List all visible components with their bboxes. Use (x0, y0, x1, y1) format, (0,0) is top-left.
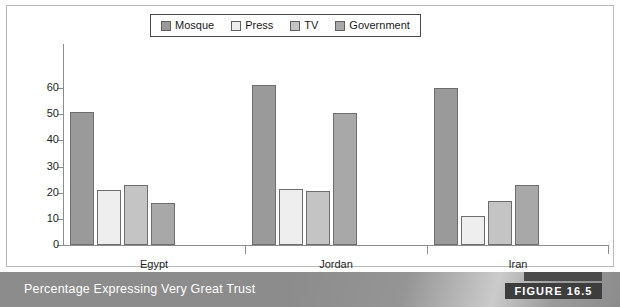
bar-jordan-mosque (252, 85, 276, 245)
bar-jordan-press (279, 189, 303, 245)
caption-bar: Percentage Expressing Very Great Trust F… (0, 272, 620, 307)
legend-item-press: Press (231, 20, 273, 31)
bar-iran-tv (488, 201, 512, 245)
plot-area: 0102030405060EgyptJordanIran (63, 44, 609, 246)
x-axis-group-label-jordan: Jordan (319, 258, 353, 270)
chart-panel: MosquePressTVGovernment 0102030405060Egy… (6, 5, 614, 267)
legend-swatch-icon (335, 21, 345, 31)
x-axis-group-separator (427, 245, 428, 254)
bar-egypt-press (97, 190, 121, 245)
legend-item-government: Government (335, 20, 410, 31)
legend-item-mosque: Mosque (161, 20, 214, 31)
x-axis-group-label-iran: Iran (509, 258, 528, 270)
y-axis-line (63, 44, 64, 246)
legend-item-label: Government (349, 20, 410, 31)
legend-item-tv: TV (290, 20, 318, 31)
legend-swatch-icon (290, 21, 300, 31)
bar-jordan-tv (306, 191, 330, 245)
y-axis-tick-label: 60 (47, 81, 59, 93)
x-axis-group-separator (608, 245, 609, 254)
bar-iran-mosque (434, 88, 458, 245)
y-axis-tick-label: 20 (47, 186, 59, 198)
y-axis-tick-label: 50 (47, 107, 59, 119)
chart-legend: MosquePressTVGovernment (150, 14, 421, 37)
figure-number-badge: FIGURE 16.5 (505, 283, 602, 299)
y-axis-tick-label: 10 (47, 212, 59, 224)
figure-tag-accent (524, 272, 602, 281)
legend-swatch-icon (161, 21, 171, 31)
y-axis-tick-label: 40 (47, 133, 59, 145)
bar-egypt-tv (124, 185, 148, 245)
figure-caption: Percentage Expressing Very Great Trust (24, 282, 255, 296)
legend-item-label: Mosque (175, 20, 214, 31)
bar-jordan-government (333, 113, 357, 245)
x-axis-line (63, 245, 609, 246)
y-axis-tick-label: 0 (53, 238, 59, 250)
bar-egypt-mosque (70, 112, 94, 245)
y-axis-tick-label: 30 (47, 160, 59, 172)
bar-egypt-government (151, 203, 175, 245)
legend-item-label: Press (245, 20, 273, 31)
figure-container: MosquePressTVGovernment 0102030405060Egy… (0, 0, 620, 307)
bar-iran-press (461, 216, 485, 245)
legend-swatch-icon (231, 21, 241, 31)
x-axis-group-separator (245, 245, 246, 254)
x-axis-group-label-egypt: Egypt (140, 258, 168, 270)
legend-item-label: TV (304, 20, 318, 31)
bar-iran-government (515, 185, 539, 245)
